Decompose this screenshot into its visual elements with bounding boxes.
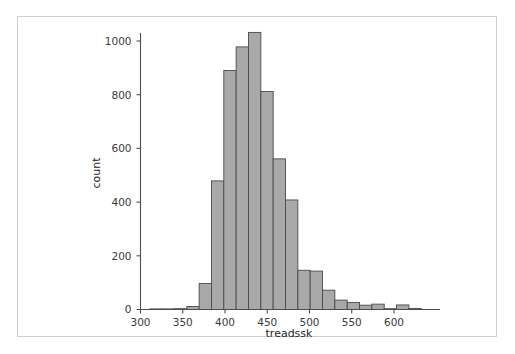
histogram-svg: 02004006008001000 300350400450500550600 … — [0, 0, 515, 354]
histogram-bar — [310, 271, 322, 309]
histogram-bar — [286, 200, 298, 310]
x-tick-label: 500 — [299, 316, 319, 328]
y-axis-title: count — [90, 157, 103, 189]
histogram-bar — [248, 32, 260, 309]
x-axis-title: treadssk — [266, 327, 314, 340]
y-tick-label: 400 — [111, 196, 131, 208]
x-tick-label: 600 — [384, 316, 404, 328]
histogram-bar — [236, 47, 248, 310]
histogram-bar — [211, 181, 223, 310]
y-tick-label: 200 — [111, 250, 131, 262]
x-axis-ticks: 300350400450500550600 — [130, 310, 404, 328]
histogram-bar — [224, 71, 236, 310]
y-tick-label: 0 — [125, 303, 132, 315]
histogram-bar — [347, 303, 359, 310]
histogram-bar — [335, 300, 347, 309]
figure-canvas: 02004006008001000 300350400450500550600 … — [0, 0, 515, 354]
histogram-bar — [360, 305, 372, 309]
x-tick-label: 300 — [130, 316, 150, 328]
x-tick-label: 350 — [173, 316, 193, 328]
histogram-plot: 02004006008001000 300350400450500550600 … — [0, 0, 515, 354]
histogram-bar — [199, 283, 211, 309]
y-tick-label: 1000 — [105, 35, 132, 47]
histogram-bar — [323, 290, 335, 309]
y-tick-label: 600 — [111, 142, 131, 154]
y-tick-label: 800 — [111, 89, 131, 101]
histogram-bar — [372, 304, 384, 309]
histogram-bar — [261, 91, 273, 309]
histogram-bar — [298, 270, 310, 309]
histogram-bar — [397, 305, 409, 310]
y-axis-ticks: 02004006008001000 — [105, 35, 141, 316]
histogram-bar — [273, 159, 285, 310]
x-tick-label: 400 — [215, 316, 235, 328]
x-tick-label: 450 — [257, 316, 277, 328]
bars-group — [150, 32, 421, 309]
x-tick-label: 550 — [342, 316, 362, 328]
